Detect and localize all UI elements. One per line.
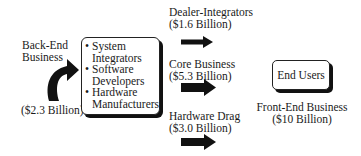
flow-value: ($1.6 Billion) (169, 18, 253, 30)
arrow-right-icon (181, 134, 216, 150)
item-line2: Manufacturers (92, 99, 159, 111)
back-end-value: ($2.3 Billion) (21, 104, 84, 116)
flow-label: Core Business (169, 58, 235, 70)
flow-dealer-integrators: Dealer-Integrators ($1.6 Billion) (169, 6, 253, 30)
front-end-title: Front-End Business (256, 101, 348, 113)
flow-label: Hardware Drag (169, 110, 240, 122)
item-line1: System (92, 41, 159, 53)
front-end-value: ($10 Billion) (256, 113, 348, 125)
participants-box: System Integrators Software Developers H… (81, 37, 160, 115)
front-end-caption: Front-End Business ($10 Billion) (256, 101, 348, 125)
flow-value: ($3.0 Billion) (169, 122, 240, 134)
end-users-box: End Users (272, 60, 330, 90)
list-item-system-integrators: System Integrators (85, 41, 159, 64)
back-end-title-line1: Back-End (22, 39, 68, 51)
list-item-software-developers: Software Developers (85, 64, 159, 87)
arrow-right-icon (181, 36, 213, 48)
curved-arrow-icon (45, 56, 81, 102)
end-users-label: End Users (273, 69, 329, 81)
arrow-right-icon (181, 79, 216, 96)
participants-list: System Integrators Software Developers H… (85, 41, 159, 111)
flow-hardware-drag: Hardware Drag ($3.0 Billion) (169, 110, 240, 134)
flow-label: Dealer-Integrators (169, 6, 253, 18)
list-item-hardware-manufacturers: Hardware Manufacturers (85, 87, 159, 110)
